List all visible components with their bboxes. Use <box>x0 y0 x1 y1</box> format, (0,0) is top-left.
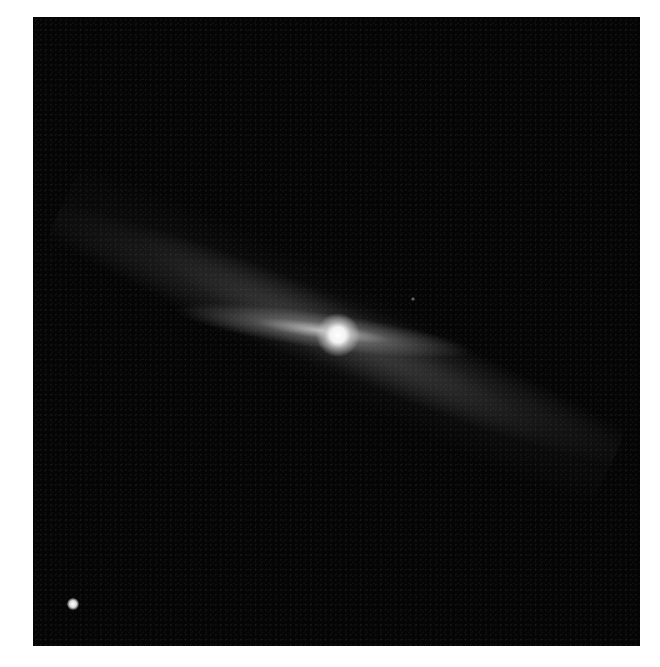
astronomical-image <box>33 17 640 646</box>
point-source-star <box>67 598 79 610</box>
central-core <box>33 17 640 646</box>
faint-star <box>411 297 415 301</box>
